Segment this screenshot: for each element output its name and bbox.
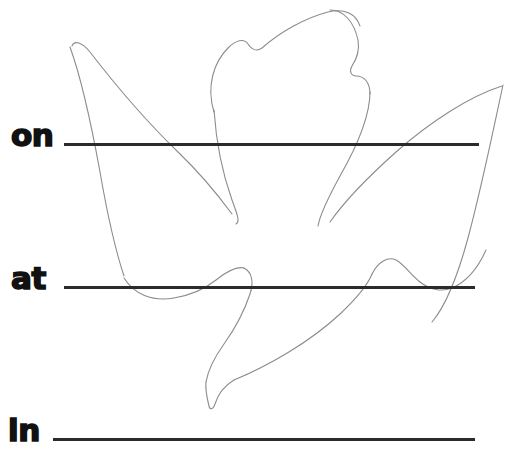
writing-line-at[interactable] — [64, 286, 475, 289]
worksheet-page: on at in — [0, 0, 506, 456]
preposition-label-at: at — [11, 263, 46, 294]
dove-outline-icon — [0, 0, 506, 456]
preposition-label-on: on — [11, 120, 53, 151]
prepositions-row-at: at — [0, 263, 475, 294]
preposition-label-in: in — [8, 415, 40, 446]
writing-line-on[interactable] — [64, 143, 479, 146]
prepositions-row-on: on — [0, 120, 479, 151]
prepositions-row-in: in — [0, 415, 475, 446]
writing-line-in[interactable] — [53, 438, 475, 441]
